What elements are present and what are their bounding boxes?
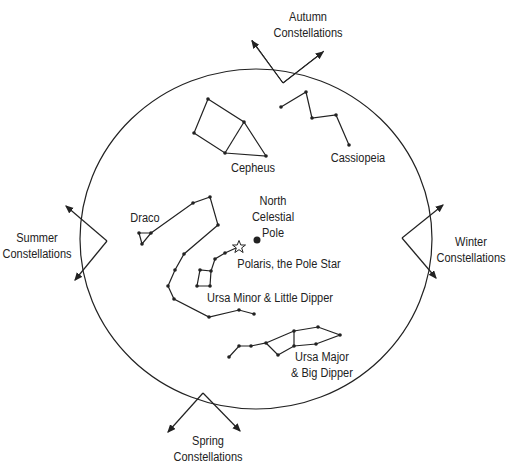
- cassiopeia-lines: [281, 92, 349, 145]
- winter-label: Winter Constellations: [431, 234, 508, 266]
- ursa-major-label: Ursa Major & Big Dipper: [287, 349, 357, 381]
- draco-label: Draco: [123, 210, 167, 226]
- spring-label: Spring Constellations: [168, 433, 247, 465]
- cassiopeia-label: Cassiopeia: [323, 150, 393, 166]
- spring-label-line1: Spring: [168, 433, 247, 449]
- ncp-label-line2: Celestial: [242, 209, 304, 225]
- ursa-minor-label: Ursa Minor & Little Dipper: [204, 290, 336, 306]
- ncp-label: North Celestial Pole: [242, 193, 304, 241]
- autumn-label-line2: Constellations: [268, 25, 347, 41]
- ursa-minor-lines: [197, 248, 236, 286]
- ncp-label-line3: Pole: [242, 225, 304, 241]
- ursa-major-label-line2: & Big Dipper: [287, 365, 357, 381]
- polaris-star-icon: [233, 241, 246, 253]
- summer-label-line1: Summer: [0, 230, 77, 246]
- winter-label-line1: Winter: [431, 234, 508, 250]
- winter-label-line2: Constellations: [431, 250, 508, 266]
- ursa-major-label-line1: Ursa Major: [287, 349, 357, 365]
- spring-arrow-icon: [168, 393, 240, 432]
- summer-label: Summer Constellations: [0, 230, 77, 262]
- autumn-label: Autumn Constellations: [268, 9, 347, 41]
- ncp-label-line1: North: [242, 193, 304, 209]
- autumn-arrow-icon: [252, 40, 324, 83]
- polaris-label: Polaris, the Pole Star: [232, 256, 346, 272]
- cepheus-label: Cepheus: [222, 160, 284, 176]
- spring-label-line2: Constellations: [168, 449, 247, 465]
- autumn-label-line1: Autumn: [268, 9, 347, 25]
- cepheus-lines: [194, 99, 266, 156]
- summer-label-line2: Constellations: [0, 246, 77, 262]
